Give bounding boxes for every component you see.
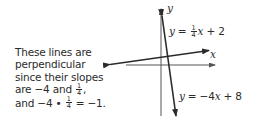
x-axis-label: x: [210, 48, 216, 60]
equation-label-line-2: y = −4x + 8: [179, 90, 242, 102]
line-y-quarter-x-plus-2: [110, 51, 209, 65]
coordinate-graph: [0, 0, 254, 123]
equation-label-line-1: y = 14x + 2: [169, 25, 225, 39]
y-axis-label: y: [167, 2, 173, 14]
fraction-one-fourth: 14: [191, 25, 197, 38]
